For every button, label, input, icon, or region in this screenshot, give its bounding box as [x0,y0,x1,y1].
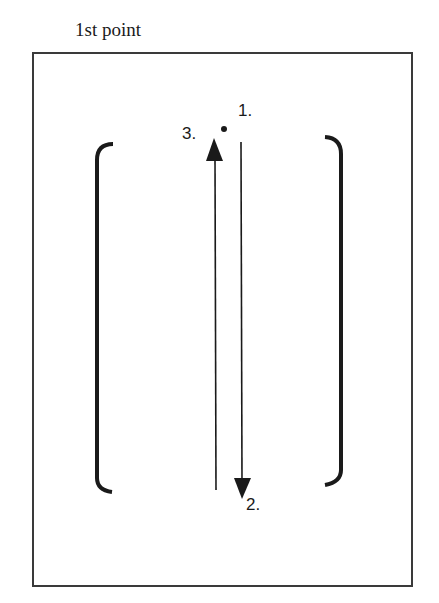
down-arrow-icon [234,142,251,499]
label-point-3: 3. [182,125,196,142]
right-bracket-icon [325,137,341,485]
left-bracket-icon [97,144,113,492]
start-point-dot-icon [221,126,227,132]
label-point-1: 1. [238,102,252,119]
label-point-2: 2. [246,496,260,513]
diagram-canvas [0,0,439,603]
up-arrow-icon [206,138,223,490]
